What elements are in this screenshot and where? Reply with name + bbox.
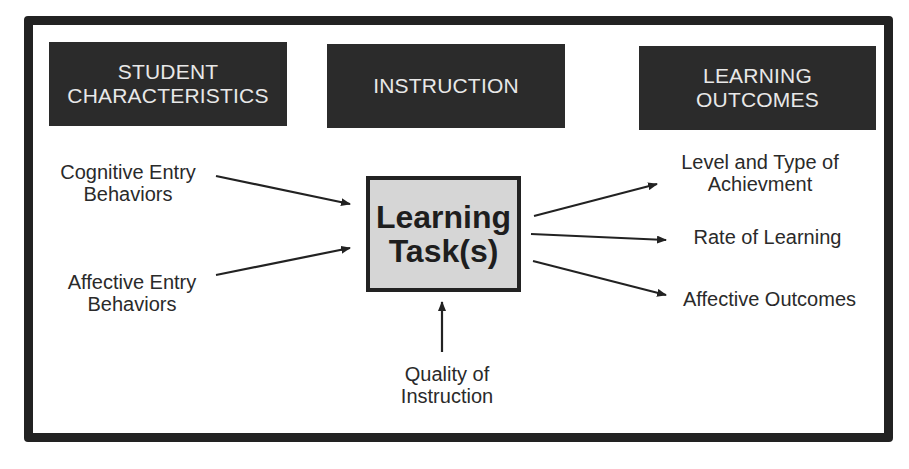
arrow-task-to-affective-outcomes xyxy=(533,261,666,295)
arrow-task-to-achievement xyxy=(534,184,657,216)
arrow-cognitive-to-task xyxy=(216,176,350,204)
arrow-task-to-rate xyxy=(531,234,666,240)
arrow-affective-to-task xyxy=(216,248,350,275)
arrow-layer xyxy=(0,0,909,469)
